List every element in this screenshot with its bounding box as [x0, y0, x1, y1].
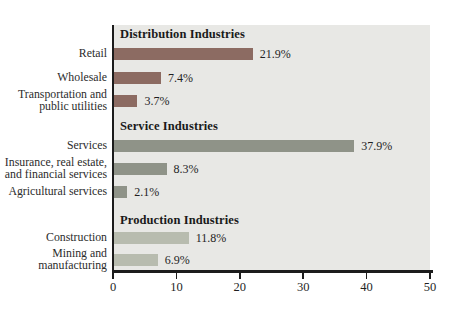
value-label: 11.8% [196, 231, 227, 245]
category-label: Construction [0, 232, 107, 244]
x-axis-tick [112, 273, 114, 279]
category-label: Agricultural services [0, 186, 107, 198]
category-label: Wholesale [0, 72, 107, 84]
group-header: Distribution Industries [120, 27, 245, 42]
x-axis-tick-label: 50 [424, 280, 437, 295]
value-label: 6.9% [165, 253, 190, 267]
category-label: Transportation and public utilities [0, 89, 107, 113]
bar [114, 232, 189, 244]
value-label: 7.4% [168, 71, 193, 85]
bar [114, 48, 253, 60]
value-label: 3.7% [144, 94, 169, 108]
bar [114, 254, 158, 266]
x-axis-tick [239, 273, 241, 279]
category-label: Insurance, real estate, and financial se… [0, 157, 107, 181]
bar [114, 140, 354, 152]
x-axis-tick-label: 10 [170, 280, 183, 295]
x-axis-tick [429, 273, 431, 279]
value-label: 2.1% [134, 185, 159, 199]
group-header: Service Industries [120, 119, 218, 134]
bar [114, 186, 127, 198]
bar [114, 72, 161, 84]
x-axis-tick [302, 273, 304, 279]
bar [114, 163, 167, 175]
category-label: Retail [0, 48, 107, 60]
x-axis-tick-label: 20 [234, 280, 247, 295]
x-axis-tick-label: 0 [110, 280, 116, 295]
x-axis-line [112, 270, 433, 273]
bar [114, 95, 137, 107]
category-label: Services [0, 140, 107, 152]
x-axis-tick [176, 273, 178, 279]
x-axis-tick-label: 30 [297, 280, 310, 295]
x-axis-tick [366, 273, 368, 279]
group-header: Production Industries [120, 213, 239, 228]
industry-share-bar-chart: Distribution IndustriesRetail21.9%Wholes… [0, 0, 449, 309]
value-label: 21.9% [260, 47, 291, 61]
value-label: 37.9% [361, 139, 392, 153]
x-axis-tick-label: 40 [360, 280, 373, 295]
category-label: Mining and manufacturing [0, 248, 107, 272]
value-label: 8.3% [174, 162, 199, 176]
